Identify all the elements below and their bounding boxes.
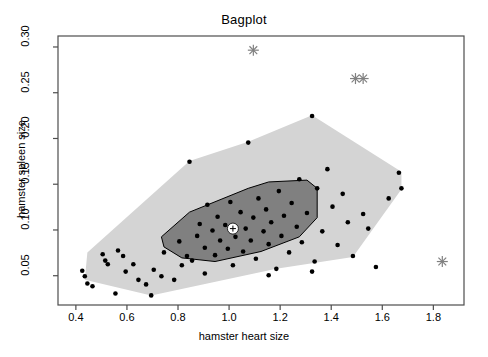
data-point — [213, 253, 218, 258]
data-point — [254, 256, 259, 261]
data-point — [190, 258, 195, 263]
data-point — [397, 170, 402, 175]
data-point — [223, 223, 228, 228]
data-point — [231, 263, 236, 268]
data-point — [195, 234, 200, 239]
data-point — [274, 267, 279, 272]
data-point — [226, 246, 231, 251]
data-point — [144, 282, 149, 287]
data-point — [386, 196, 391, 201]
y-axis-ticks — [53, 47, 58, 276]
data-point — [85, 281, 90, 286]
data-point — [279, 234, 284, 239]
data-point — [177, 239, 182, 244]
data-point — [131, 262, 136, 267]
y-axis-label: hamster spleen size — [15, 104, 27, 234]
data-point — [248, 238, 253, 243]
x-tick-label: 1.2 — [260, 311, 300, 323]
data-point — [266, 273, 271, 278]
data-point — [123, 269, 128, 274]
x-tick-label: 1.8 — [413, 311, 453, 323]
data-point — [300, 240, 305, 245]
data-point — [241, 249, 246, 254]
data-point — [159, 274, 164, 279]
data-point — [136, 278, 141, 283]
data-point — [315, 186, 320, 191]
data-point — [305, 211, 310, 216]
data-point — [238, 210, 243, 215]
y-tick-label: 0.30 — [19, 19, 31, 53]
data-point — [269, 220, 274, 225]
data-point — [340, 192, 345, 197]
x-tick-label: 1.0 — [209, 311, 249, 323]
data-point — [351, 254, 356, 259]
data-point — [243, 226, 248, 231]
data-point — [320, 229, 325, 234]
data-point — [325, 167, 330, 172]
data-point — [203, 271, 208, 276]
data-point — [261, 229, 266, 234]
bagplot-figure: Bagplot 0.40.60.81.01.21.41.61.8 0.050.1… — [0, 0, 488, 357]
data-point — [251, 215, 256, 220]
data-point — [335, 243, 340, 248]
data-point — [228, 200, 233, 205]
data-point — [264, 207, 269, 212]
data-point — [312, 259, 317, 264]
data-point — [256, 196, 261, 201]
data-point — [185, 254, 190, 259]
data-point — [180, 263, 185, 268]
data-point — [205, 203, 210, 208]
data-point — [218, 238, 223, 243]
plot-canvas — [0, 0, 488, 357]
outlier-star-icon — [437, 256, 448, 267]
x-axis-label: hamster heart size — [0, 330, 488, 342]
data-point — [105, 262, 110, 267]
x-axis-ticks — [76, 305, 433, 310]
data-point — [294, 224, 299, 229]
data-point — [90, 284, 95, 289]
data-point — [203, 246, 208, 251]
data-point — [346, 220, 351, 225]
outlier-star-icon — [248, 45, 259, 56]
depth-median-marker — [227, 223, 238, 234]
data-point — [310, 269, 315, 274]
x-tick-label: 1.4 — [311, 311, 351, 323]
data-point — [100, 252, 105, 257]
data-point — [187, 160, 192, 165]
data-point — [361, 212, 366, 217]
outlier-star-icon — [358, 73, 369, 84]
x-tick-label: 1.6 — [362, 311, 402, 323]
data-point — [246, 140, 251, 145]
y-tick-label: 0.05 — [19, 248, 31, 282]
data-point — [113, 291, 118, 296]
data-point — [366, 226, 371, 231]
data-point — [197, 222, 202, 227]
data-point — [80, 268, 85, 273]
data-point — [297, 177, 302, 182]
y-tick-label: 0.25 — [19, 65, 31, 99]
data-point — [215, 214, 220, 219]
data-point — [83, 274, 88, 279]
data-point — [121, 254, 126, 259]
data-point — [172, 278, 177, 283]
data-point — [149, 293, 154, 298]
x-tick-label: 0.8 — [158, 311, 198, 323]
data-point — [330, 204, 335, 209]
data-point — [289, 201, 294, 206]
data-point — [374, 265, 379, 270]
data-point — [399, 186, 404, 191]
x-tick-label: 0.4 — [56, 311, 96, 323]
data-point — [116, 248, 121, 253]
data-point — [277, 189, 282, 194]
data-point — [310, 114, 315, 119]
data-point — [266, 242, 271, 247]
data-point — [287, 250, 292, 255]
data-point — [151, 267, 156, 272]
x-tick-label: 0.6 — [107, 311, 147, 323]
data-point — [282, 213, 287, 218]
data-point — [210, 228, 215, 233]
data-point — [233, 235, 238, 240]
data-point — [162, 250, 167, 255]
